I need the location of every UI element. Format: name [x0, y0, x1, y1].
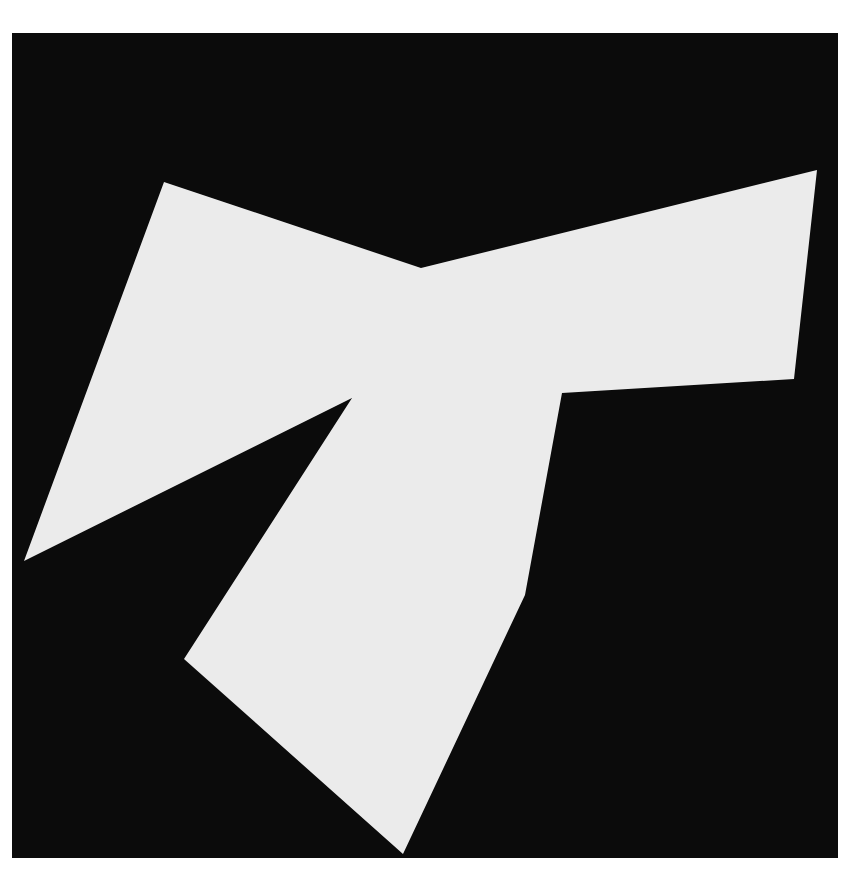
- artwork-frame: [12, 33, 838, 858]
